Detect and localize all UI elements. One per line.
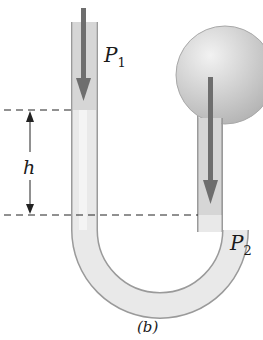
height-label: h — [23, 156, 35, 178]
gas-bulb — [176, 26, 263, 124]
manometer-diagram: h P1 P2 (b) — [0, 0, 263, 340]
left-fluid-highlight — [79, 110, 87, 230]
p1-label: P1 — [103, 43, 126, 70]
figure-caption: (b) — [137, 318, 158, 336]
